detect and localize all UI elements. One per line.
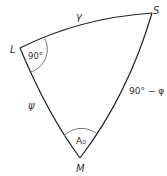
angle-label-m: A₀ <box>76 136 86 146</box>
angle-arc-m <box>64 128 97 136</box>
side-ls <box>20 13 152 48</box>
side-label-90-minus-phi: 90° − φ <box>129 86 164 96</box>
vertex-label-l: L <box>10 44 16 55</box>
spherical-triangle-diagram: L S M γ ψ 90° − φ 90° A₀ <box>0 0 167 176</box>
angle-label-l: 90° <box>28 51 43 61</box>
vertex-label-s: S <box>153 5 160 16</box>
side-label-gamma: γ <box>76 11 83 22</box>
vertex-label-m: M <box>76 163 85 174</box>
side-label-psi: ψ <box>28 100 35 111</box>
